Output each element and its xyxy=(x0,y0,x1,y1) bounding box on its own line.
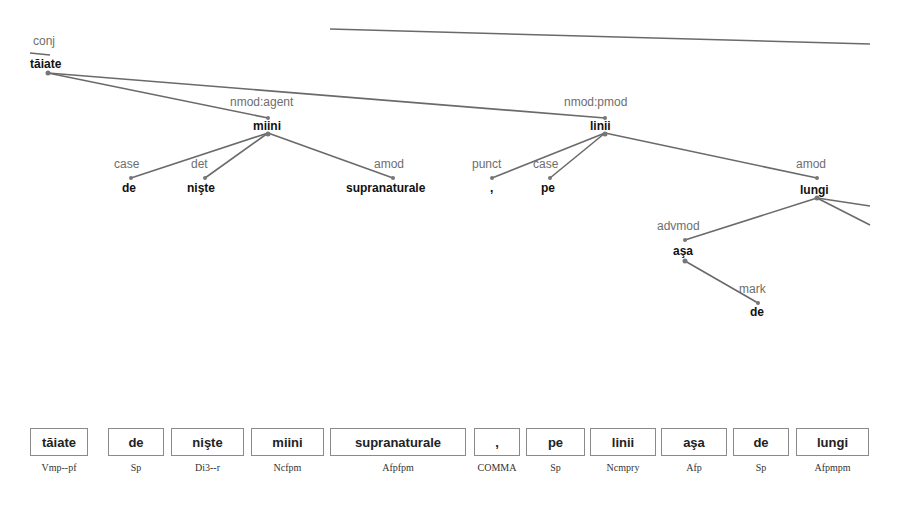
token-pos-tag: Afpmpm xyxy=(796,462,869,473)
rel-label-mark: mark xyxy=(739,282,767,296)
edge-conj-arrow xyxy=(30,53,50,55)
node-word-miini[interactable]: miini xyxy=(253,119,281,133)
node-word-supranaturale[interactable]: supranaturale xyxy=(346,181,426,195)
token-box[interactable]: pe xyxy=(526,428,585,456)
token-box[interactable]: supranaturale xyxy=(330,428,466,456)
tree-edges xyxy=(30,29,870,303)
token-pos-tag: Sp xyxy=(526,462,585,473)
token-pos-tag: Sp xyxy=(733,462,789,473)
token-word: lungi xyxy=(817,435,848,450)
token-box[interactable]: lungi xyxy=(796,428,869,456)
node-word-pe[interactable]: pe xyxy=(541,181,555,195)
edge-miini-supranaturale xyxy=(268,133,393,178)
node-word-de[interactable]: de xyxy=(750,305,764,319)
edge-taiate-linii xyxy=(48,73,605,118)
node-word-linii[interactable]: linii xyxy=(590,119,611,133)
token-pos-tag: Ncmpry xyxy=(590,462,656,473)
rel-label-amod: amod xyxy=(374,157,404,171)
token-word: de xyxy=(128,435,143,450)
edge-linii-pe xyxy=(550,133,605,178)
rel-label-conj: conj xyxy=(33,34,55,48)
token-word: linii xyxy=(612,435,634,450)
token-pos-tag: Vmp--pf xyxy=(30,462,88,473)
token-box[interactable]: , xyxy=(474,428,520,456)
word-labels: tăiate miini de nişte supranaturale lini… xyxy=(30,57,829,319)
token-word: , xyxy=(495,435,499,450)
rel-label-punct: punct xyxy=(472,157,502,171)
token-pos-tag: Di3--r xyxy=(171,462,244,473)
node-word-de[interactable]: de xyxy=(122,181,136,195)
token-box[interactable]: de xyxy=(733,428,789,456)
edge-miini-de xyxy=(131,133,268,178)
token-pos-tag: Sp xyxy=(108,462,164,473)
rel-label-nmod-pmod: nmod:pmod xyxy=(564,95,627,109)
tree-node-dots xyxy=(46,71,820,306)
token-word: nişte xyxy=(192,435,222,450)
rel-label-case: case xyxy=(533,157,559,171)
rel-label-case: case xyxy=(114,157,140,171)
edge-linii-lungi xyxy=(605,133,817,178)
edge-linii-comma xyxy=(492,133,605,178)
token-word: miini xyxy=(272,435,302,450)
node-word-comma[interactable]: , xyxy=(490,181,493,195)
edge-offscreen-head xyxy=(330,29,870,44)
token-box[interactable]: de xyxy=(108,428,164,456)
relation-labels: conj nmod:agent case det amod nmod:pmod … xyxy=(33,34,826,296)
token-pos-tag: COMMA xyxy=(470,462,524,473)
token-pos-tag: Ncfpm xyxy=(251,462,324,473)
rel-label-det: det xyxy=(191,157,208,171)
rel-label-nmod-agent: nmod:agent xyxy=(230,95,294,109)
rel-label-amod: amod xyxy=(796,157,826,171)
token-word: aşa xyxy=(683,435,705,450)
node-word-lungi[interactable]: lungi xyxy=(800,183,829,197)
node-word-asa[interactable]: aşa xyxy=(673,244,693,258)
token-box[interactable]: miini xyxy=(251,428,324,456)
token-box[interactable]: tăiate xyxy=(30,428,88,456)
token-word: supranaturale xyxy=(355,435,441,450)
edge-lungi-asa xyxy=(685,198,817,240)
token-word: pe xyxy=(548,435,563,450)
token-box[interactable]: aşa xyxy=(661,428,727,456)
dependency-tree: conj nmod:agent case det amod nmod:pmod … xyxy=(0,0,897,410)
edge-miini-niste xyxy=(205,133,268,178)
token-box[interactable]: nişte xyxy=(171,428,244,456)
token-word: tăiate xyxy=(42,435,76,450)
rel-label-advmod: advmod xyxy=(657,219,700,233)
token-box[interactable]: linii xyxy=(590,428,656,456)
token-pos-tag: Afpfpm xyxy=(330,462,466,473)
token-pos-tag: Afp xyxy=(661,462,727,473)
node-word-niste[interactable]: nişte xyxy=(187,181,215,195)
token-word: de xyxy=(753,435,768,450)
node-word-taiate[interactable]: tăiate xyxy=(30,57,62,71)
